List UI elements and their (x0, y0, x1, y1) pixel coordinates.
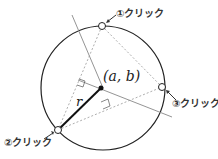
click-point-2[interactable] (55, 127, 62, 134)
click-point-1[interactable] (99, 23, 106, 30)
click-point-3[interactable] (159, 84, 166, 91)
point-3-label: ③クリック (172, 95, 218, 110)
center-point (99, 86, 104, 91)
point-1-label: ①クリック (116, 5, 164, 20)
center-label: (a, b) (103, 68, 140, 84)
radius-label: r (76, 94, 82, 109)
bisector-2-3 (78, 80, 172, 117)
right-angle-marker-2 (101, 99, 110, 109)
point-2-label: ②クリック (4, 134, 52, 149)
